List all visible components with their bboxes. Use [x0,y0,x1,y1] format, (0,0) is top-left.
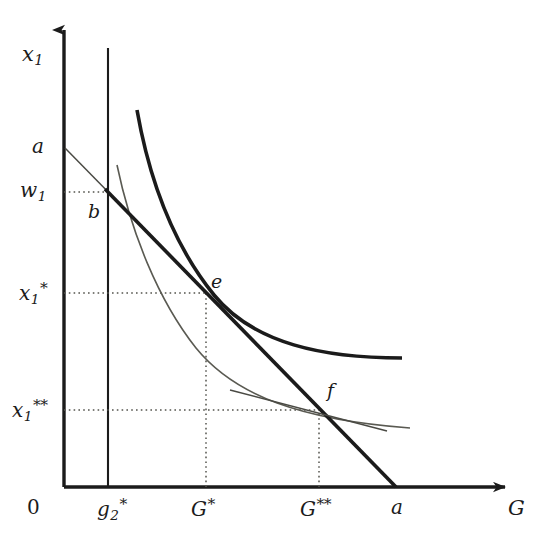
origin-label: 0 [27,497,40,517]
figure-canvas [0,0,537,555]
economics-figure: x1 G 0 a w1 x1* x1** g2* G* G** a b e f [0,0,537,555]
x-tick-label-G-star: G* [191,497,215,519]
y-tick-label-a: a [32,136,44,156]
point-label-b: b [88,202,100,221]
point-label-f: f [327,381,334,400]
y-axis-label: x1 [22,44,43,67]
y-tick-label-x1-star: x1* [19,281,47,307]
y-tick-label-w1: w1 [20,180,46,203]
axis-group [64,30,505,487]
x-tick-label-G-starstar: G** [300,497,331,519]
x-tick-label-a: a [391,497,403,517]
point-label-e: e [211,272,222,291]
budget-line-bold [105,189,396,487]
y-tick-label-x1-starstar: x1** [12,398,48,424]
x-tick-label-g2-star: g2* [97,497,127,523]
x-axis-label: G [508,498,525,519]
